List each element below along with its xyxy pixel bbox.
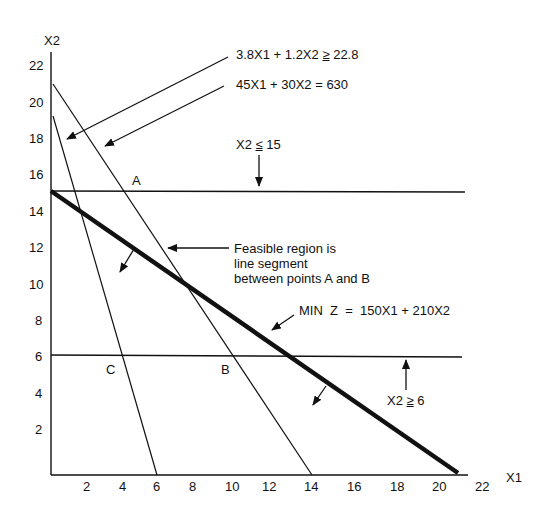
y-tick: 22 xyxy=(29,59,43,73)
c3-lhs: X2 xyxy=(236,137,252,152)
c4-lhs: X2 xyxy=(387,393,403,408)
y-tick: 10 xyxy=(29,278,43,292)
y-tick: 16 xyxy=(29,168,43,182)
c3-op: ≤ xyxy=(256,137,263,152)
point-label-c: C xyxy=(106,362,115,377)
x-tick: 10 xyxy=(225,480,239,494)
x-tick: 22 xyxy=(475,480,489,494)
y-tick: 12 xyxy=(29,241,43,255)
constraint-label-c2: 45X1 + 30X2 = 630 xyxy=(236,77,348,92)
constraint-line-x2-ge-6 xyxy=(51,355,462,357)
constraint-line-c1 xyxy=(53,116,157,475)
x-tick: 2 xyxy=(83,480,90,494)
y-tick: 6 xyxy=(35,350,42,364)
point-label-b: B xyxy=(221,362,230,377)
c1-pointer-arrow xyxy=(67,57,228,139)
c1-rhs: 22.8 xyxy=(333,47,358,62)
feasible-note-line-2: line segment xyxy=(234,256,370,271)
constraint-label-c3: X2 ≤ 15 xyxy=(236,137,281,152)
c2-pointer-arrow xyxy=(105,86,224,146)
feasible-note-line-1: Feasible region is xyxy=(234,241,370,256)
objective-pointer-arrow xyxy=(272,315,294,330)
feasible-region-note: Feasible region is line segment between … xyxy=(234,241,370,286)
x-tick: 20 xyxy=(432,480,446,494)
y-tick: 18 xyxy=(29,132,43,146)
c4-rhs: 6 xyxy=(417,393,424,408)
c1-lhs: 3.8X1 + 1.2X2 xyxy=(236,47,319,62)
x-tick: 14 xyxy=(304,480,318,494)
y-tick: 20 xyxy=(29,96,43,110)
x-tick: 16 xyxy=(347,480,361,494)
c2-rhs: 630 xyxy=(326,77,348,92)
c3-rhs: 15 xyxy=(266,137,280,152)
x-axis-label: X1 xyxy=(506,470,522,485)
c1-op: ≥ xyxy=(322,47,329,62)
c4-op: ≥ xyxy=(407,393,414,408)
objective-direction-arrow-2 xyxy=(313,386,326,405)
constraint-line-x2-le-15 xyxy=(51,191,465,192)
x-tick: 12 xyxy=(262,480,276,494)
c2-op: = xyxy=(315,77,323,92)
y-tick: 2 xyxy=(35,423,42,437)
x-tick: 6 xyxy=(153,480,160,494)
x-tick: 18 xyxy=(390,480,404,494)
y-tick: 4 xyxy=(35,387,42,401)
objective-label: MIN Z = 150X1 + 210X2 xyxy=(299,303,450,318)
objective-line xyxy=(51,191,458,473)
y-axis-label: X2 xyxy=(44,33,60,48)
y-tick: 8 xyxy=(35,314,42,328)
y-tick: 14 xyxy=(29,205,43,219)
constraint-label-c1: 3.8X1 + 1.2X2 ≥ 22.8 xyxy=(236,47,358,62)
c2-lhs: 45X1 + 30X2 xyxy=(236,77,312,92)
point-label-a: A xyxy=(132,173,141,188)
x-tick: 8 xyxy=(189,480,196,494)
objective-direction-arrow-1 xyxy=(120,249,134,272)
x-tick: 4 xyxy=(119,480,126,494)
feasible-note-line-3: between points A and B xyxy=(234,271,370,286)
constraint-label-c4: X2 ≥ 6 xyxy=(387,393,425,408)
